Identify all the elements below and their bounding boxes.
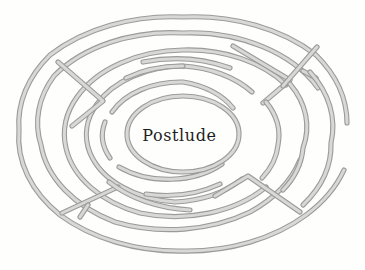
maze-right-arc-fragment-3 <box>262 102 279 178</box>
maze-inner-stub-left <box>102 122 110 158</box>
maze-inner-stub-top <box>126 66 183 78</box>
maze-figure-page: Postlude <box>0 0 365 270</box>
maze-center-chamber <box>127 96 239 172</box>
labyrinth-maze-svg <box>0 0 365 270</box>
maze-right-arc-fragment-2 <box>283 84 307 190</box>
maze-ring-3 <box>64 50 286 217</box>
